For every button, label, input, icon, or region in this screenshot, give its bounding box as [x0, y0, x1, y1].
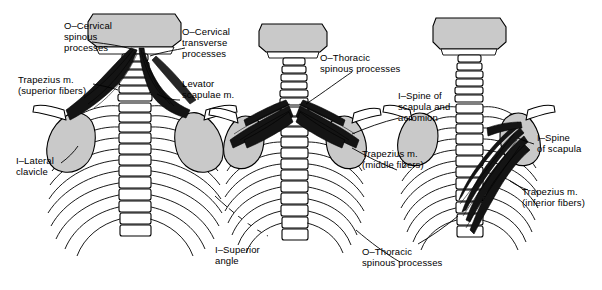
label-thoracic-spinous-processes-1: O–Thoracic spinous processes: [320, 52, 400, 74]
label-thoracic-spinous-processes-2: O–Thoracic spinous processes: [362, 246, 442, 268]
view-inferior-fibers: [383, 18, 555, 250]
anatomy-figure: .bone{fill:#ffffff;stroke:#000000;stroke…: [0, 0, 602, 290]
label-levator-scapulae: Levator scapulae m.: [182, 78, 234, 100]
label-cervical-transverse-processes: O–Cervical transverse processes: [182, 26, 230, 59]
label-trapezius-superior-fibers: Trapezius m. (superior fibers): [18, 74, 86, 96]
label-superior-angle: I–Superior angle: [215, 244, 260, 266]
label-spine-of-scapula: I–Spine of scapula: [537, 132, 581, 154]
label-cervical-spinous-processes: O–Cervical spinous processes: [64, 20, 112, 53]
label-trapezius-inferior-fibers: Trapezius m. (inferior fibers): [522, 186, 585, 208]
label-lateral-clavicle: I–Lateral clavicle: [16, 155, 54, 177]
label-spine-of-scapula-and-acromion: I–Spine of scapula and acromion: [398, 90, 450, 123]
label-trapezius-middle-fibers: Trapezius m. (middle fibers): [362, 148, 424, 170]
